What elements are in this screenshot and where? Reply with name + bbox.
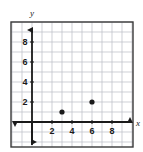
y-axis-label: y [29, 8, 34, 18]
x-tick-label-4: 4 [69, 126, 74, 136]
x-axis-label: x [135, 118, 140, 128]
y-tick-label-8: 8 [22, 37, 27, 47]
y-tick-label-2: 2 [22, 97, 27, 107]
x-tick-label-2: 2 [49, 126, 54, 136]
y-tick-label-4: 4 [22, 77, 27, 87]
y-tick-label-6: 6 [22, 57, 27, 67]
coordinate-grid-svg: 2 4 6 8 2 4 6 8 y x [0, 0, 143, 152]
x-tick-label-6: 6 [89, 126, 94, 136]
x-tick-label-8: 8 [109, 126, 114, 136]
data-point-1[interactable] [59, 109, 64, 114]
data-point-2[interactable] [89, 99, 94, 104]
coordinate-plane-figure: 2 4 6 8 2 4 6 8 y x [0, 0, 143, 152]
